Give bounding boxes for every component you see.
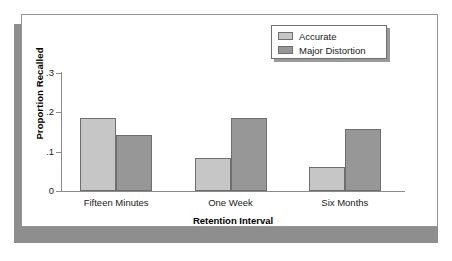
y-axis-tick	[56, 191, 61, 192]
bar-accurate[interactable]	[80, 118, 116, 191]
chart-legend: Accurate Major Distortion	[271, 25, 387, 59]
legend-item-accurate[interactable]: Accurate	[278, 29, 381, 43]
figure-root: 0.1.2.3 Proportion Recalled Fifteen Minu…	[0, 0, 452, 261]
bar-major-distortion[interactable]	[345, 129, 381, 191]
x-axis-tick-label: One Week	[171, 197, 291, 208]
x-axis-line	[61, 191, 405, 192]
x-axis-title: Retention Interval	[61, 215, 405, 226]
bar-accurate[interactable]	[309, 167, 345, 191]
plot-area	[61, 73, 404, 191]
x-axis-tick-label: Six Months	[285, 197, 405, 208]
legend-swatch-major-distortion-icon	[278, 46, 293, 54]
bar-major-distortion[interactable]	[116, 135, 152, 191]
legend-label-major-distortion: Major Distortion	[299, 45, 366, 56]
y-axis-tick-label: 0	[28, 186, 54, 196]
legend-swatch-accurate-icon	[278, 32, 293, 40]
y-axis-title: Proportion Recalled	[34, 34, 45, 154]
x-axis-tick-label: Fifteen Minutes	[56, 197, 176, 208]
bar-major-distortion[interactable]	[231, 118, 267, 191]
legend-item-major-distortion[interactable]: Major Distortion	[278, 43, 381, 57]
bar-accurate[interactable]	[195, 158, 231, 191]
legend-label-accurate: Accurate	[299, 31, 337, 42]
